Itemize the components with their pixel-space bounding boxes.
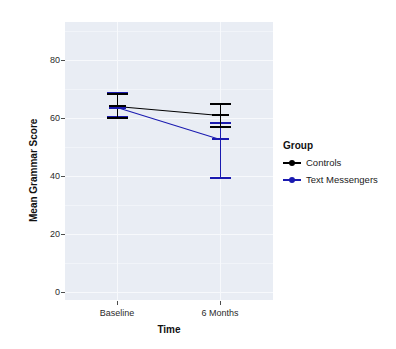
point-line-key-icon — [283, 157, 301, 169]
gridline-y-60 — [65, 118, 273, 119]
gridline-y-40 — [65, 176, 273, 177]
legend-label-controls: Controls — [306, 157, 341, 169]
mean-marker-controls-6-months — [212, 114, 229, 116]
legend-label-text-messengers: Text Messengers — [306, 174, 378, 186]
errorbar-cap-upper-controls-6-months — [210, 103, 231, 105]
gridline-y-90 — [65, 31, 273, 32]
y-tick-label-20: 20 — [34, 230, 60, 239]
y-tick-mark-40 — [61, 176, 65, 177]
gridline-y-0 — [65, 292, 273, 293]
gridline-x-baseline — [117, 22, 118, 300]
y-tick-label-0: 0 — [34, 288, 60, 297]
errorbar-cap-lower-controls-baseline — [107, 117, 128, 119]
x-tick-mark-baseline — [117, 301, 118, 305]
errorbar-cap-lower-text-messengers-6-months — [210, 177, 231, 179]
series-line-text-messengers — [117, 107, 220, 140]
mean-marker-text-messengers-baseline — [109, 107, 126, 109]
x-tick-label-6-months: 6 Months — [190, 308, 250, 318]
legend-title: Group — [283, 140, 393, 151]
gridline-y-20 — [65, 234, 273, 235]
y-tick-mark-60 — [61, 118, 65, 119]
gridline-y-50 — [65, 147, 273, 148]
errorbar-cap-lower-controls-6-months — [210, 126, 231, 128]
plot-panel — [65, 22, 273, 300]
mean-marker-text-messengers-6-months — [212, 138, 229, 140]
errorbar-cap-upper-controls-baseline — [107, 93, 128, 95]
y-tick-mark-80 — [61, 60, 65, 61]
gridline-y-10 — [65, 263, 273, 264]
y-axis-title: Mean Grammar Score — [28, 119, 39, 222]
legend: Group Controls Text Messengers — [283, 140, 393, 191]
x-tick-mark-6-months — [220, 301, 221, 305]
point-line-key-icon — [283, 174, 301, 186]
y-tick-mark-20 — [61, 234, 65, 235]
legend-item-text-messengers[interactable]: Text Messengers — [283, 174, 393, 186]
errorbar-stem-text-messengers-6-months — [220, 122, 221, 178]
x-tick-label-baseline: Baseline — [87, 308, 147, 318]
gridline-y-80 — [65, 60, 273, 61]
y-tick-mark-0 — [61, 292, 65, 293]
x-axis-title: Time — [139, 324, 199, 335]
gridline-y-70 — [65, 89, 273, 90]
legend-item-controls[interactable]: Controls — [283, 157, 393, 169]
y-tick-label-80: 80 — [34, 56, 60, 65]
chart-root: 0 20 40 60 80 Mean Grammar Score Baselin… — [0, 0, 396, 349]
gridline-y-30 — [65, 205, 273, 206]
